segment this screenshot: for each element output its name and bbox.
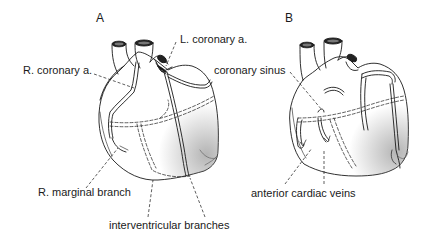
heart-a-arterial-supply [99,40,218,180]
leader-interventricular-2 [190,178,205,217]
leader-left-coronary [166,42,176,66]
heart-b-venous-drainage [290,38,409,176]
heart-illustrations [0,0,437,245]
leader-interventricular-1 [148,180,153,217]
heart-anatomy-figure: A B R. coronary a. L. coronary a. R. mar… [0,0,437,245]
